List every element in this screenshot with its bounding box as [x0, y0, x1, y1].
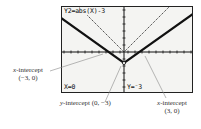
leader-left-x-intercept: [50, 54, 103, 71]
y-intercept-label: y-intercept (0, −3): [60, 100, 111, 108]
y2-abs-x-minus-3-line: [61, 14, 193, 63]
x-intercept-left-label: x-intercept (−3, 0): [4, 67, 52, 82]
label-point: (−3, 0): [4, 75, 52, 83]
leader-right-x-intercept: [145, 56, 166, 98]
x-intercept-right-label: x-intercept (3, 0): [148, 100, 196, 115]
cursor-x-readout: X=0: [63, 84, 76, 91]
trace-cursor: [122, 61, 125, 64]
figure: Y2=abs(X)-3 X=0 Y=⁻3 x-intercept (−3, 0)…: [0, 0, 201, 129]
label-text: -intercept: [16, 66, 43, 74]
cursor-y-readout: Y=⁻3: [126, 84, 143, 91]
label-text: -intercept: [160, 99, 187, 107]
function-header: Y2=abs(X)-3: [63, 8, 106, 15]
leader-y-intercept: [105, 66, 121, 102]
leader-lines: [50, 54, 166, 102]
label-text: -intercept (0, −3): [63, 99, 111, 107]
label-point: (3, 0): [148, 108, 196, 116]
